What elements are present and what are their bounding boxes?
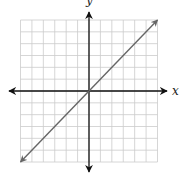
y-axis-label: y xyxy=(85,0,93,7)
coordinate-plane: x y xyxy=(0,0,183,180)
x-axis-label: x xyxy=(172,84,179,98)
